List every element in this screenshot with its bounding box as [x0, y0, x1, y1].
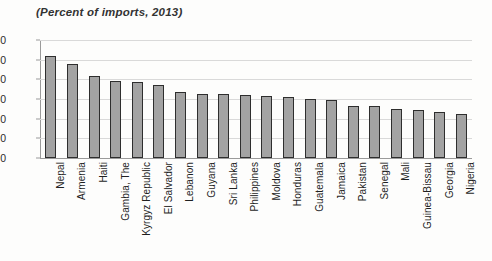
y-tick-label-40: 40: [0, 73, 6, 85]
bar: [45, 56, 56, 158]
x-tick-label: Jamaica: [336, 162, 347, 200]
bar: [261, 96, 272, 158]
x-tick-label: Gambia, The: [120, 162, 131, 221]
gridline-0: [40, 158, 472, 159]
bar-series: [40, 40, 472, 158]
bar: [434, 112, 445, 158]
x-tick-label: Guinea-Bissau: [422, 162, 433, 229]
y-tick-label-50: 50: [0, 54, 6, 66]
x-tick-label: Armenia: [76, 162, 87, 200]
y-tick-label-10: 10: [0, 132, 6, 144]
y-tick-label-20: 20: [0, 113, 6, 125]
y-tick-label-60: 60: [0, 34, 6, 46]
bar: [67, 64, 78, 158]
x-tick-label: Lebanon: [184, 162, 195, 202]
bar: [326, 100, 337, 158]
bar: [110, 81, 121, 158]
x-tick-label: Honduras: [292, 162, 303, 206]
bar: [89, 76, 100, 158]
bar: [456, 114, 467, 158]
x-tick-label: Kyrgyz Republic: [141, 162, 152, 236]
bar: [305, 99, 316, 158]
x-tick-label: Moldova: [271, 162, 282, 201]
x-tick-label: Sri Lanka: [228, 162, 239, 205]
bar: [132, 82, 143, 158]
bar: [175, 92, 186, 158]
x-tick-label: Mali: [400, 162, 411, 181]
x-tick-label: Senegal: [379, 162, 390, 199]
bar: [153, 85, 164, 158]
x-tick-label: Haiti: [98, 162, 109, 183]
y-tick-label-30: 30: [0, 93, 6, 105]
chart-title: (Percent of imports, 2013): [36, 6, 182, 18]
bar: [197, 94, 208, 159]
y-tick-label-0: 0: [0, 152, 6, 164]
x-axis-labels: NepalArmeniaHaitiGambia, TheKyrgyz Repub…: [40, 160, 472, 261]
x-tick-label: Guatemala: [314, 162, 325, 212]
bar: [283, 97, 294, 158]
plot-area: [40, 40, 472, 158]
x-tick-label: Nepal: [55, 162, 66, 189]
bar: [240, 95, 251, 158]
x-tick-label: Philippines: [249, 162, 260, 211]
chart-figure: (Percent of imports, 2013) 0102030405060…: [0, 0, 492, 261]
x-tick-label: Guyana: [206, 162, 217, 198]
x-tick-label: El Salvador: [163, 162, 174, 214]
x-tick-label: Georgia: [444, 162, 455, 198]
x-tick-label: Pakistan: [357, 162, 368, 201]
bar: [391, 109, 402, 158]
bar: [218, 94, 229, 158]
y-axis-labels: 0102030405060: [0, 0, 40, 261]
bar: [413, 110, 424, 158]
bar: [369, 106, 380, 158]
x-tick-label: Nigeria: [465, 162, 476, 194]
bar: [348, 106, 359, 159]
